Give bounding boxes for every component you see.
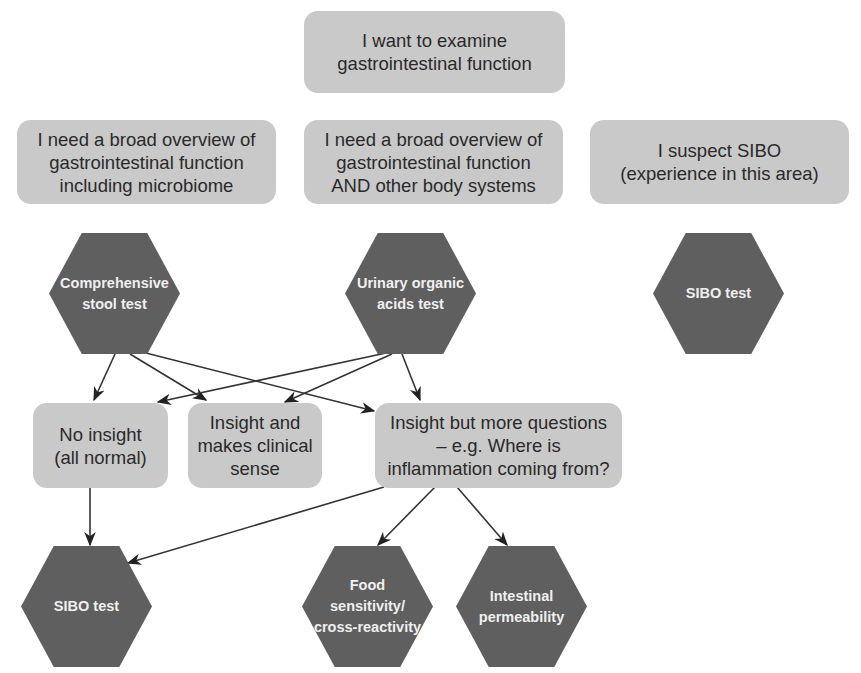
insight-more-questions-box: Insight but more questions – e.g. Where … bbox=[375, 403, 622, 488]
arrow-questions-to-food bbox=[378, 487, 435, 545]
arrow-urinary-to-clinical-sense bbox=[285, 354, 392, 402]
need-other-systems-box: I need a broad overview of gastrointesti… bbox=[304, 120, 563, 204]
no-insight-box: No insight (all normal) bbox=[33, 403, 168, 488]
arrow-questions-to-permeability bbox=[457, 487, 507, 545]
suspect-sibo-box: I suspect SIBO (experience in this area) bbox=[590, 120, 849, 204]
need-microbiome-box: I need a broad overview of gastrointesti… bbox=[17, 120, 276, 204]
arrow-stool-to-no-insight bbox=[94, 354, 115, 400]
root-question-box: I want to examine gastrointestinal funct… bbox=[304, 11, 565, 93]
arrow-urinary-to-more-questions bbox=[402, 354, 420, 400]
insight-clinical-sense-box: Insight and makes clinical sense bbox=[188, 403, 322, 488]
arrow-urinary-to-no-insight bbox=[158, 353, 386, 402]
arrow-stool-to-clinical-sense bbox=[130, 354, 206, 400]
